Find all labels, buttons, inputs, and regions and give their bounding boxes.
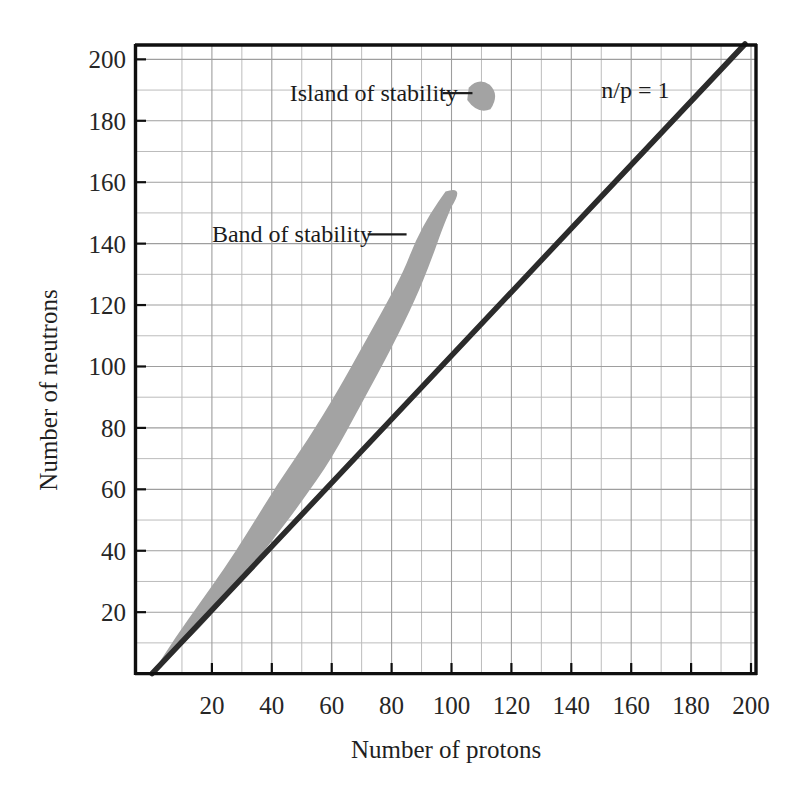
nuclear-stability-chart: 20406080100120140160180200 2040608010012… bbox=[0, 0, 798, 789]
y-tick-label: 100 bbox=[89, 353, 127, 380]
y-tick-label: 40 bbox=[101, 538, 126, 565]
x-tick-label: 60 bbox=[319, 692, 344, 719]
x-axis-title: Number of protons bbox=[351, 736, 541, 763]
x-tick-label: 200 bbox=[732, 692, 770, 719]
x-tick-label: 120 bbox=[493, 692, 531, 719]
x-tick-label: 20 bbox=[199, 692, 224, 719]
annotation-island-of-stability: Island of stability bbox=[290, 80, 458, 106]
y-tick-label: 140 bbox=[89, 231, 127, 258]
y-tick-label: 80 bbox=[101, 415, 126, 442]
y-tick-label: 20 bbox=[101, 599, 126, 626]
y-tick-label: 120 bbox=[89, 292, 127, 319]
y-tick-label: 60 bbox=[101, 476, 126, 503]
y-tick-label: 180 bbox=[89, 108, 127, 135]
x-tick-label: 80 bbox=[379, 692, 404, 719]
x-tick-label: 140 bbox=[553, 692, 591, 719]
x-tick-label: 160 bbox=[612, 692, 650, 719]
y-axis-title: Number of neutrons bbox=[35, 289, 62, 490]
y-tick-label: 200 bbox=[89, 46, 127, 73]
figure-container: 20406080100120140160180200 2040608010012… bbox=[0, 0, 798, 789]
annotation-np-ratio: n/p = 1 bbox=[601, 77, 669, 103]
annotation-band-of-stability: Band of stability bbox=[212, 221, 372, 247]
x-tick-label: 40 bbox=[259, 692, 284, 719]
y-tick-label: 160 bbox=[89, 169, 127, 196]
x-tick-label: 100 bbox=[433, 692, 471, 719]
x-tick-label: 180 bbox=[672, 692, 710, 719]
